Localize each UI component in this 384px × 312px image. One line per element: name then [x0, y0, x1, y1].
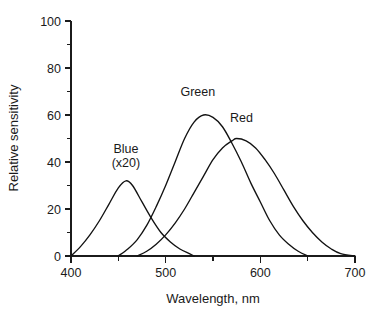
y-tick-label: 40	[47, 156, 61, 170]
y-tick-label: 100	[40, 15, 61, 29]
x-tick-label: 400	[61, 266, 82, 280]
chart-axes	[71, 21, 355, 256]
curve-green	[118, 115, 307, 256]
x-axis-title: Wavelength, nm	[166, 291, 259, 306]
chart-curves	[71, 115, 355, 256]
x-tick-label: 700	[345, 266, 366, 280]
axis-spine	[71, 21, 355, 256]
chart-figure: 020406080100400500600700 Blue(x20)GreenR…	[0, 0, 384, 312]
chart-ticks	[65, 21, 355, 263]
chart-annotations: Blue(x20)GreenRed	[112, 85, 253, 169]
curve-sublabel-blue: (x20)	[112, 156, 140, 170]
y-tick-label: 20	[47, 203, 61, 217]
y-axis-title: Relative sensitivity	[6, 84, 21, 191]
curve-label-blue: Blue	[113, 142, 138, 156]
cone-sensitivity-chart: 020406080100400500600700 Blue(x20)GreenR…	[0, 0, 384, 312]
curve-red	[137, 139, 355, 257]
y-tick-label: 80	[47, 62, 61, 76]
x-tick-label: 600	[250, 266, 271, 280]
chart-tick-labels: 020406080100400500600700	[40, 15, 365, 281]
curve-label-red: Red	[230, 111, 253, 125]
y-tick-label: 0	[54, 250, 61, 264]
curve-label-green: Green	[180, 85, 215, 99]
y-tick-label: 60	[47, 109, 61, 123]
x-tick-label: 500	[155, 266, 176, 280]
